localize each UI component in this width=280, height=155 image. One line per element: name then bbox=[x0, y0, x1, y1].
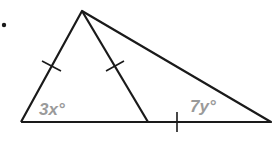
angle-label-7y: 7y° bbox=[190, 97, 216, 116]
angle-label-3x: 3x° bbox=[39, 100, 65, 119]
triangle-diagram: 3x° 7y° bbox=[0, 0, 280, 155]
tick-mark-interior-segment bbox=[106, 61, 124, 71]
bullet-dot bbox=[2, 23, 6, 27]
tick-mark-left-side bbox=[42, 61, 61, 71]
